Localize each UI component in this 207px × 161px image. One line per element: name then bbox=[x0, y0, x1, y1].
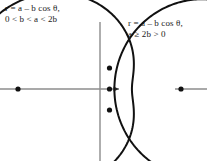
marked-point-upper-dimple-point bbox=[107, 65, 112, 70]
limacon-curve-dimpled bbox=[0, 0, 134, 161]
polar-curves-figure: r = a – b cos θ, 0 < b < a < 2b r = a – … bbox=[0, 0, 207, 161]
marked-point-lower-dimple-point bbox=[107, 107, 112, 112]
marked-point-left-vertex-point bbox=[15, 86, 20, 91]
figure-dimpled-limacon bbox=[0, 0, 134, 161]
figure-convex-limacon bbox=[114, 0, 207, 161]
marked-point-left-vertex-point bbox=[178, 86, 183, 91]
marked-point-origin-vertex-point bbox=[107, 86, 112, 91]
limacon-curve-convex bbox=[114, 0, 207, 161]
limacon-plot-canvas bbox=[0, 0, 207, 161]
marked-points-convex bbox=[178, 86, 183, 91]
